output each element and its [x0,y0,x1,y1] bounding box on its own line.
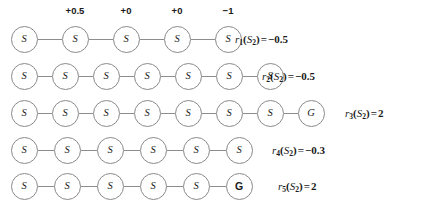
state-node: S [52,63,79,90]
node-label: S [185,108,190,119]
node-label: S [72,34,77,45]
return-value: −0.5 [268,33,288,45]
transition-edge [38,39,62,40]
node-label: S [21,34,26,45]
node-label: S [21,181,26,192]
state-node: S [257,100,284,127]
trajectory-row: SSSSSSSr2(S2)=−0.5 [0,60,422,94]
state-node: S [11,100,38,127]
node-label: S [226,71,231,82]
trajectory-row: SSSSSSSGr3(S2)=2 [0,97,422,131]
state-node: S [216,100,243,127]
equals-sign: = [260,33,268,45]
state-node: S [113,26,140,53]
node-label: G [235,181,243,192]
node-label: S [21,145,26,156]
transition-edge [202,76,216,77]
goal-node: G [298,100,325,127]
node-label: S [21,71,26,82]
step-reward-label: −1 [223,5,234,16]
node-label: S [225,34,230,45]
return-value: −0.3 [305,144,325,156]
return-argument-subscript: 2 [252,38,256,47]
step-reward-label: +0.5 [66,5,85,16]
state-node: S [97,173,124,200]
node-label: S [103,71,108,82]
transition-edge [89,39,113,40]
node-label: S [64,181,69,192]
node-label: S [150,181,155,192]
transition-edge [38,186,54,187]
transition-edge [210,186,226,187]
node-label: S [236,145,241,156]
state-node: S [164,26,191,53]
node-label: S [185,71,190,82]
transition-edge [243,76,257,77]
return-label: r5(S2)=2 [278,180,317,192]
node-label: S [107,181,112,192]
state-node: S [175,63,202,90]
node-label: S [103,108,108,119]
transition-edge [167,186,183,187]
node-label: S [62,71,67,82]
state-node: S [183,173,210,200]
goal-node: G [226,173,253,200]
node-label: S [174,34,179,45]
node-label: S [193,181,198,192]
state-node: S [11,26,38,53]
trajectory-row: SSSSSr1(S2)=−0.5 [0,23,422,57]
return-function-subscript: 4 [276,149,280,158]
state-node: S [183,137,210,164]
return-label: r2(S2)=−0.5 [262,70,315,82]
return-function-subscript: 1 [239,38,243,47]
state-node: S [140,137,167,164]
step-reward-label: +0 [121,5,132,16]
state-node: S [52,100,79,127]
return-argument-subscript: 2 [279,75,283,84]
return-function-subscript: 5 [282,185,286,194]
node-label: S [150,145,155,156]
node-label: S [144,71,149,82]
state-node: S [93,100,120,127]
transition-edge [202,113,216,114]
equals-sign: = [287,70,295,82]
return-value: 2 [378,107,384,119]
state-node: S [54,137,81,164]
transition-edge [38,76,52,77]
return-function-subscript: 2 [266,75,270,84]
transition-edge [120,76,134,77]
transition-edge [120,113,134,114]
return-function-subscript: 3 [349,112,353,121]
transition-edge [161,113,175,114]
trajectory-row: SSSSSGr5(S2)=2 [0,170,422,204]
state-node: S [97,137,124,164]
node-label: S [123,34,128,45]
state-node: S [134,100,161,127]
node-label: S [62,108,67,119]
node-label: S [226,108,231,119]
trajectory-diagram: SSSSSr1(S2)=−0.5+0.5+0+0−1SSSSSSSr2(S2)=… [0,0,422,210]
transition-edge [81,186,97,187]
node-label: S [267,108,272,119]
return-label: r1(S2)=−0.5 [235,33,288,45]
node-label: S [193,145,198,156]
node-label: S [21,108,26,119]
state-node: S [226,137,253,164]
step-reward-label: +0 [172,5,183,16]
state-node: S [216,63,243,90]
state-node: S [62,26,89,53]
state-node: S [54,173,81,200]
node-label: G [307,108,315,119]
return-argument-subscript: 2 [362,112,366,121]
transition-edge [167,150,183,151]
transition-edge [140,39,164,40]
transition-edge [243,113,257,114]
state-node: S [11,173,38,200]
return-argument-subscript: 2 [295,185,299,194]
transition-edge [38,150,54,151]
transition-edge [79,113,93,114]
return-label: r4(S2)=−0.3 [272,144,325,156]
transition-edge [284,113,298,114]
node-label: S [107,145,112,156]
state-node: S [175,100,202,127]
